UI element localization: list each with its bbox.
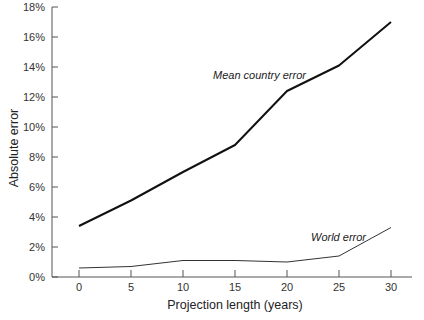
- x-axis-ticks: 051015202530: [76, 270, 397, 293]
- line-chart: 0%2%4%6%8%10%12%14%16%18% 051015202530 M…: [0, 0, 424, 320]
- y-tick-label: 12%: [23, 91, 45, 103]
- world-error-label: World error: [311, 231, 367, 243]
- mean-country-error-line: [79, 22, 391, 226]
- y-tick-label: 4%: [29, 211, 45, 223]
- x-axis-title: Projection length (years): [167, 298, 302, 312]
- y-axis-ticks: 0%2%4%6%8%10%12%14%16%18%: [23, 1, 58, 283]
- x-tick-label: 25: [333, 281, 345, 293]
- y-axis-title: Absolute error: [7, 109, 21, 188]
- mean-country-error-label: Mean country error: [213, 69, 307, 81]
- y-tick-label: 14%: [23, 61, 45, 73]
- y-tick-label: 0%: [29, 271, 45, 283]
- x-tick-label: 15: [229, 281, 241, 293]
- y-tick-label: 8%: [29, 151, 45, 163]
- x-tick-label: 0: [76, 281, 82, 293]
- y-tick-label: 16%: [23, 31, 45, 43]
- y-tick-label: 18%: [23, 1, 45, 13]
- x-tick-label: 30: [385, 281, 397, 293]
- y-tick-label: 10%: [23, 121, 45, 133]
- x-tick-label: 10: [177, 281, 189, 293]
- y-tick-label: 6%: [29, 181, 45, 193]
- x-tick-label: 20: [281, 281, 293, 293]
- y-tick-label: 2%: [29, 241, 45, 253]
- x-tick-label: 5: [128, 281, 134, 293]
